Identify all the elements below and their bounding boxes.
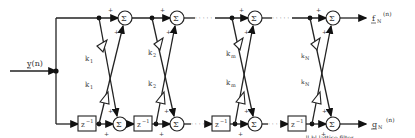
svg-text:Σ: Σ	[329, 14, 335, 23]
svg-text:Σ: Σ	[251, 120, 257, 129]
svg-text:−1: −1	[220, 118, 227, 124]
svg-text:· · · · ·: · · · · ·	[191, 120, 208, 127]
svg-text:N: N	[305, 55, 310, 61]
svg-text:Σ: Σ	[173, 120, 179, 129]
svg-text:+: +	[239, 6, 244, 13]
svg-text:+: +	[164, 107, 169, 114]
stage-2: Σ + + z −1 Σ + + k 2 k 2	[134, 6, 184, 137]
svg-text:+: +	[244, 107, 249, 114]
svg-text:−1: −1	[296, 118, 303, 124]
input-label: y(n)	[26, 59, 43, 68]
input-line	[10, 18, 59, 124]
svg-text:Σ: Σ	[116, 120, 122, 129]
stage-m: Σ + + z −1 Σ + + k m k m	[212, 6, 262, 137]
svg-text:+: +	[166, 28, 171, 35]
svg-text:g: g	[372, 120, 377, 129]
svg-text:+: +	[244, 28, 249, 35]
svg-text:2: 2	[153, 83, 156, 89]
output-forward-label: f N (n)	[371, 10, 392, 24]
svg-text:Σ: Σ	[121, 14, 127, 23]
output-backward-label: g N (n)	[371, 116, 395, 130]
svg-text:+: +	[160, 6, 165, 13]
svg-text:+: +	[108, 6, 113, 13]
svg-text:Σ: Σ	[329, 120, 335, 129]
caption: ...ll-bl-lattice filter	[300, 134, 354, 138]
svg-text:Σ: Σ	[173, 14, 179, 23]
svg-text:+: +	[322, 28, 327, 35]
svg-text:+: +	[159, 130, 164, 137]
svg-text:z: z	[137, 121, 141, 129]
svg-text:· · · · ·: · · · · ·	[195, 14, 212, 21]
svg-text:+: +	[238, 130, 243, 137]
svg-text:+: +	[322, 107, 327, 114]
svg-text:−1: −1	[142, 118, 149, 124]
svg-text:N: N	[305, 81, 310, 87]
svg-text:N: N	[377, 18, 382, 24]
svg-text:Σ: Σ	[251, 14, 257, 23]
svg-text:z: z	[215, 121, 219, 129]
svg-text:(n): (n)	[383, 10, 392, 17]
svg-text:+: +	[108, 107, 113, 114]
stage-1: Σ + + z −1 Σ + + k 1 k 1	[78, 6, 132, 137]
svg-text:(n): (n)	[386, 116, 395, 123]
svg-text:z: z	[81, 121, 85, 129]
svg-text:2: 2	[153, 52, 156, 58]
svg-text:f: f	[372, 14, 376, 23]
svg-text:−1: −1	[86, 118, 93, 124]
svg-text:1: 1	[90, 58, 93, 64]
svg-text:+: +	[104, 130, 109, 137]
gain-triangle	[100, 92, 109, 104]
lattice-filter-diagram: y(n) Σ + + z −1 Σ + + k 1 k 1 Σ +	[0, 0, 415, 138]
stage-N: Σ + + z −1 Σ + + k N k N	[288, 6, 340, 137]
svg-text:+: +	[316, 6, 321, 13]
svg-text:z: z	[291, 121, 295, 129]
svg-text:+: +	[114, 28, 119, 35]
svg-text:1: 1	[90, 84, 93, 90]
svg-text:m: m	[231, 82, 236, 88]
svg-text:· · · · ·: · · · · ·	[272, 14, 289, 21]
svg-text:N: N	[378, 124, 383, 130]
svg-text:m: m	[231, 53, 236, 59]
